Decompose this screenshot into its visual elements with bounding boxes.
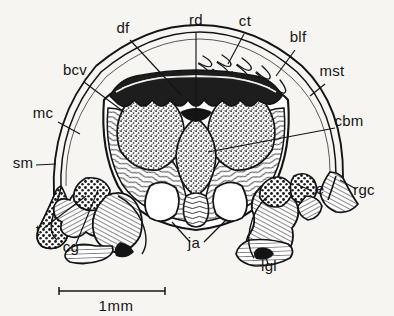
label-mst: mst xyxy=(319,62,345,79)
label-blf: blf xyxy=(290,28,307,45)
label-rgc: rgc xyxy=(353,181,375,198)
anatomy-figure: df rd ct blf mst cbm bcv mc sm t cg ja l… xyxy=(0,0,394,316)
label-e: e xyxy=(316,180,325,197)
label-bcv: bcv xyxy=(63,61,87,78)
label-lgl: lgl xyxy=(261,257,277,274)
scale-bar-label: 1mm xyxy=(99,297,134,314)
scale-bar: 1mm xyxy=(59,287,165,314)
leader-sm xyxy=(36,164,56,165)
label-sm: sm xyxy=(13,154,34,171)
label-rd: rd xyxy=(189,11,203,28)
leader-ct xyxy=(228,34,244,64)
label-t: t xyxy=(36,221,41,238)
figure-page: { "figure": { "kind": "anatomical-line-d… xyxy=(0,0,394,316)
label-mc: mc xyxy=(33,104,54,121)
label-ct: ct xyxy=(239,12,252,29)
label-cbm: cbm xyxy=(334,112,363,129)
label-df: df xyxy=(116,19,130,36)
label-cg: cg xyxy=(63,238,79,255)
label-ja: ja xyxy=(187,234,201,251)
